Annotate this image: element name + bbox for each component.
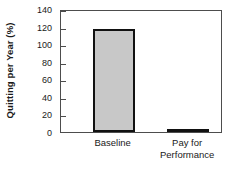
y-axis-tick-mark: [61, 81, 66, 82]
y-axis-tick-label: 20: [8, 111, 52, 120]
y-axis-tick-label: 60: [8, 76, 52, 85]
y-axis-tick-label: 140: [8, 6, 52, 15]
y-axis-tick-mark: [61, 29, 66, 30]
plot-area: [60, 10, 222, 133]
x-axis-tick-label: Pay for Performance: [137, 137, 234, 160]
bar: [167, 129, 209, 132]
y-axis-tick-mark: [61, 116, 66, 117]
y-axis-tick-mark: [61, 99, 66, 100]
bar-chart-figure: Quitting per Year (%) 020406080100120140…: [0, 0, 234, 172]
y-axis-tick-label: 100: [8, 41, 52, 50]
y-axis-tick-label: 120: [8, 23, 52, 32]
y-axis-tick-mark: [61, 64, 66, 65]
y-axis-tick-mark: [61, 46, 66, 47]
y-axis-tick-label: 40: [8, 93, 52, 102]
y-axis-title-text: Quitting per Year (%): [5, 22, 16, 118]
y-axis-tick-mark: [61, 11, 66, 12]
y-axis-tick-label: 0: [8, 129, 52, 138]
y-axis-tick-label: 80: [8, 58, 52, 67]
bar: [93, 29, 135, 132]
